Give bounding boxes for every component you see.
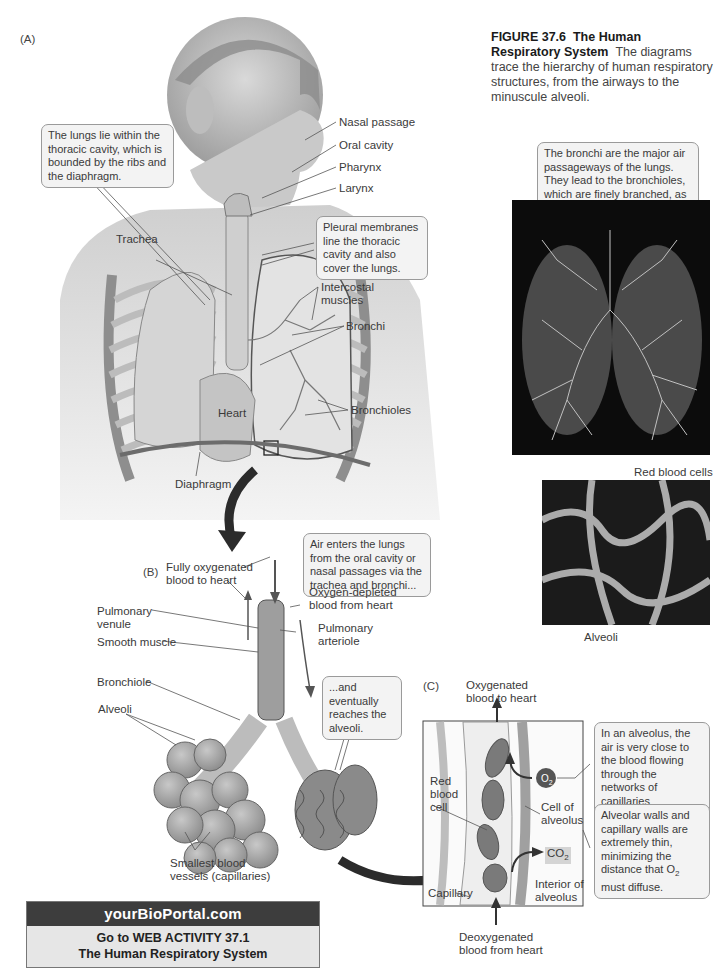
label-alveolus-cell: alveolus bbox=[541, 814, 583, 827]
panel-b-letter: (B) bbox=[143, 566, 158, 578]
bronchial-tree-photo bbox=[512, 200, 710, 455]
label-pharynx: Pharynx bbox=[339, 161, 381, 174]
web-activity-title: The Human Respiratory System bbox=[27, 946, 319, 962]
label-oxygen-depleted: Oxygen-depleted bbox=[309, 586, 397, 599]
label-pulmonary-arteriole: Pulmonary bbox=[318, 622, 373, 635]
label-smooth-muscle: Smooth muscle bbox=[97, 636, 176, 649]
alveolar-walls-callout: Alveolar walls and capillary walls are e… bbox=[594, 804, 710, 899]
label-smallest-blood: Smallest blood bbox=[170, 857, 245, 870]
panel-a-letter: (A) bbox=[20, 33, 35, 45]
curved-arrow-b-c bbox=[340, 860, 430, 881]
label-capillary: Capillary bbox=[428, 887, 473, 900]
figure-caption: FIGURE 37.6 The Human Respiratory System… bbox=[491, 30, 713, 105]
o2-badge: O2 bbox=[541, 772, 553, 789]
bronchial-tree-cast-icon bbox=[512, 200, 710, 455]
reaches-alveoli-callout: ...and eventually reaches the alveoli. bbox=[322, 676, 402, 740]
label-intercostal: Intercostal bbox=[321, 281, 374, 294]
label-alveoli-photo: Alveoli bbox=[584, 631, 618, 644]
alveoli-micrograph-icon bbox=[542, 480, 710, 625]
label-heart: Heart bbox=[218, 407, 246, 420]
figure-number: FIGURE 37.6 bbox=[491, 30, 566, 44]
label-deoxy-blood-from-heart: blood from heart bbox=[459, 944, 543, 957]
label-blood-to-heart: blood to heart bbox=[166, 574, 236, 587]
label-arteriole: arteriole bbox=[318, 635, 360, 648]
label-bronchi: Bronchi bbox=[346, 320, 385, 333]
label-cell: cell bbox=[430, 801, 447, 814]
label-intercostal-muscles: muscles bbox=[321, 294, 363, 307]
alveoli-micrograph bbox=[542, 480, 710, 625]
label-blood: blood bbox=[430, 788, 458, 801]
label-interior-of: Interior of bbox=[535, 878, 584, 891]
trachea bbox=[226, 210, 248, 370]
label-red-blood-cells: Red blood cells bbox=[634, 466, 713, 479]
label-red: Red bbox=[430, 775, 451, 788]
label-bronchiole: Bronchiole bbox=[97, 676, 151, 689]
co2-badge: CO2 bbox=[545, 847, 571, 864]
label-oxygenated: Oxygenated bbox=[466, 679, 528, 692]
pleural-membranes-callout: Pleural membranes line the thoracic cavi… bbox=[316, 216, 428, 280]
label-deoxygenated: Deoxygenated bbox=[459, 931, 533, 944]
label-vessels-capillaries: vessels (capillaries) bbox=[170, 870, 270, 883]
label-cell-of: Cell of bbox=[541, 801, 574, 814]
label-bronchioles: Bronchioles bbox=[351, 404, 411, 417]
label-larynx: Larynx bbox=[339, 182, 374, 195]
label-alveoli-b: Alveoli bbox=[98, 703, 132, 716]
label-nasal-passage: Nasal passage bbox=[339, 116, 415, 129]
label-venule: venule bbox=[97, 618, 131, 631]
label-oxygenated-blood-to-heart: blood to heart bbox=[466, 692, 536, 705]
bioportal-box[interactable]: yourBioPortal.com Go to WEB ACTIVITY 37.… bbox=[26, 901, 320, 968]
label-diaphragm: Diaphragm bbox=[175, 478, 231, 491]
label-blood-from-heart: blood from heart bbox=[309, 599, 393, 612]
bioportal-site-link[interactable]: yourBioPortal.com bbox=[27, 902, 319, 926]
web-activity-link[interactable]: Go to WEB ACTIVITY 37.1 The Human Respir… bbox=[27, 926, 319, 967]
thoracic-cavity-callout: The lungs lie within the thoracic cavity… bbox=[41, 124, 174, 188]
label-trachea: Trachea bbox=[116, 233, 158, 246]
web-activity-number: Go to WEB ACTIVITY 37.1 bbox=[27, 930, 319, 946]
label-oral-cavity: Oral cavity bbox=[339, 139, 393, 152]
label-alveolus-interior: alveolus bbox=[535, 891, 577, 904]
label-pulmonary-venule: Pulmonary bbox=[97, 605, 152, 618]
label-fully-oxygenated: Fully oxygenated bbox=[166, 561, 253, 574]
panel-c-letter: (C) bbox=[423, 680, 439, 692]
